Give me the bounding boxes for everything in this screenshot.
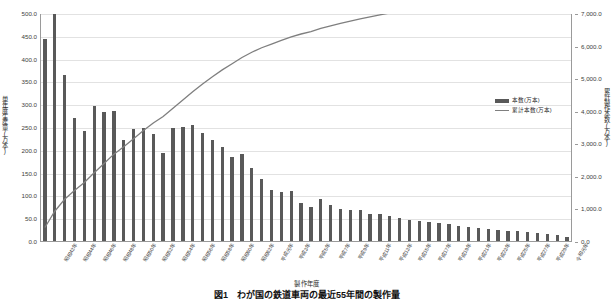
y-axis-left: 0.050.0100.0150.0200.0250.0300.0350.0400… (8, 14, 37, 242)
x-axis-tick-label: 平成3年 (299, 243, 312, 260)
y-axis-right-tick: 3,000.0 (581, 141, 602, 147)
x-axis-title: 製作年度 (0, 279, 614, 288)
y-axis-left-tick: 450.0 (22, 34, 37, 40)
x-axis-tick-label: 平成7年 (338, 243, 351, 260)
y-axis-left-tick: 250.0 (22, 125, 37, 131)
x-axis-tick-label: 昭和46年 (103, 243, 117, 263)
x-axis-tick-label: 昭和48年 (123, 243, 137, 263)
y-axis-left-tick: 150.0 (22, 171, 37, 177)
y-axis-left-tick: 500.0 (22, 11, 37, 17)
x-axis-tick-label: 平成27年 (536, 243, 550, 263)
x-axis-tick-label: 昭和44年 (83, 243, 97, 263)
y-axis-right-tickmark (575, 209, 578, 210)
y-axis-right-title: 累計製作本数(万本) (603, 88, 609, 146)
x-axis-tick-label: 平成17年 (438, 243, 452, 263)
legend-item: 本数(万本) (495, 98, 552, 104)
x-axis-tick-label: 平成25年 (517, 243, 531, 263)
x-axis-tick-label: 平成15年 (418, 243, 432, 263)
y-axis-right-tick: 5,000.0 (581, 76, 602, 82)
x-axis-tick-label: 昭和54年 (182, 243, 196, 263)
y-axis-left-tick: 100.0 (22, 193, 37, 199)
x-axis-tick-label: 昭和50年 (142, 243, 156, 263)
x-axis-tick-label: 昭和56年 (202, 243, 216, 263)
x-axis-tick-label: 平成元年 (280, 243, 294, 262)
x-axis-tick-label: 平成21年 (477, 243, 491, 263)
y-axis-right-tickmark (575, 79, 578, 80)
x-axis-tick-label: 平成29年 (556, 243, 570, 263)
y-axis-right-tickmark (575, 47, 578, 48)
x-axis-tick-label: 平成11年 (379, 243, 393, 262)
x-axis-tick-label: 令和元年 (576, 243, 590, 262)
legend: 本数(万本)累計本数(万本) (495, 98, 552, 117)
y-axis-right-tickmark (575, 112, 578, 113)
figure-caption: 図1 わが国の鉄道車両の最近55年間の製作量 (0, 288, 614, 299)
legend-item-label: 本数(万本) (512, 98, 540, 104)
y-axis-left-tick: 400.0 (22, 57, 37, 63)
y-axis-left-tick: 200.0 (22, 148, 37, 154)
plot-border (40, 14, 572, 242)
y-axis-left-tick: 50.0 (25, 216, 37, 222)
x-axis-tick-label: 平成23年 (497, 243, 511, 263)
x-axis-tick-label: 平成9年 (358, 243, 371, 260)
y-axis-right-tick: 7,000.0 (581, 11, 602, 17)
y-axis-left-tick: 0.0 (28, 239, 37, 245)
x-axis-tick-label: 昭和58年 (221, 243, 235, 263)
x-axis-tick-label: 昭和52年 (162, 243, 176, 263)
legend-bar-swatch-icon (495, 99, 509, 103)
y-axis-right-tick: 6,000.0 (581, 44, 602, 50)
y-axis-left-title: 単年度生産量(万本) (1, 96, 7, 154)
y-axis-right-tick: 4,000.0 (581, 109, 602, 115)
x-axis-tick-label: 昭和60年 (241, 243, 255, 263)
y-axis-left-tick: 300.0 (22, 102, 37, 108)
y-axis-right-tickmark (575, 14, 578, 15)
x-axis-labels: 昭和42年昭和44年昭和46年昭和48年昭和50年昭和52年昭和54年昭和56年… (40, 243, 572, 279)
legend-line-swatch-icon (495, 110, 509, 112)
y-axis-right-tick: 1,000.0 (581, 206, 602, 212)
y-axis-right-tickmark (575, 177, 578, 178)
y-axis-right-tick: 2,000.0 (581, 174, 602, 180)
y-axis-right-tickmark (575, 144, 578, 145)
x-axis-tick-label: 昭和62年 (261, 243, 275, 263)
legend-item: 累計本数(万本) (495, 108, 552, 114)
x-axis-tick-label: 平成13年 (399, 243, 413, 263)
y-axis-left-tick: 350.0 (22, 79, 37, 85)
legend-item-label: 累計本数(万本) (512, 108, 552, 114)
y-axis-right-tickmark (575, 242, 578, 243)
plot-area: 本数(万本)累計本数(万本) (40, 14, 572, 242)
x-axis-tick-label: 平成5年 (318, 243, 331, 260)
x-axis-tick-label: 昭和42年 (64, 243, 78, 263)
x-axis-tick-label: 平成19年 (458, 243, 472, 263)
chart-page: 0.050.0100.0150.0200.0250.0300.0350.0400… (0, 0, 614, 299)
